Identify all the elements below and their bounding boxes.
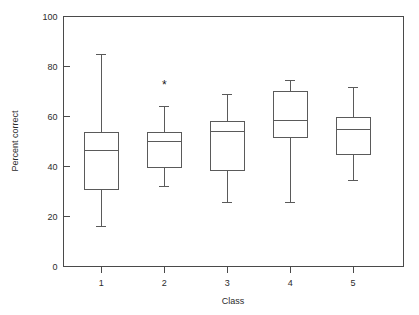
box-iqr — [210, 122, 244, 171]
box-series: * — [84, 54, 370, 227]
y-tick-label: 80 — [47, 62, 57, 72]
x-tick-label: 1 — [99, 278, 104, 288]
plot-canvas: * 02040608010012345 Percent correct Clas… — [0, 0, 419, 315]
box-iqr — [273, 92, 307, 138]
box-iqr — [84, 133, 118, 189]
outlier-marker: * — [162, 78, 167, 92]
x-tick-label: 2 — [162, 278, 167, 288]
y-axis-title: Percent correct — [10, 110, 20, 172]
plot-border — [64, 17, 404, 267]
box-group-1 — [84, 54, 118, 227]
box-group-5 — [336, 88, 370, 181]
box-group-4 — [273, 80, 307, 203]
y-tick-label: 40 — [47, 162, 57, 172]
y-tick-label: 20 — [47, 212, 57, 222]
box-group-2: * — [147, 78, 181, 186]
x-axis-title: Class — [222, 296, 245, 306]
box-iqr — [336, 118, 370, 154]
y-tick-label: 60 — [47, 112, 57, 122]
x-axis-ticks — [101, 267, 353, 273]
boxplot-chart: * 02040608010012345 Percent correct Clas… — [0, 0, 419, 315]
box-iqr — [147, 133, 181, 168]
x-tick-label: 4 — [288, 278, 293, 288]
box-group-3 — [210, 94, 244, 203]
x-tick-label: 3 — [225, 278, 230, 288]
y-tick-label: 100 — [42, 12, 57, 22]
x-tick-label: 5 — [351, 278, 356, 288]
plot-frame — [64, 17, 404, 267]
y-axis-ticks — [64, 17, 70, 267]
y-tick-label: 0 — [52, 262, 57, 272]
